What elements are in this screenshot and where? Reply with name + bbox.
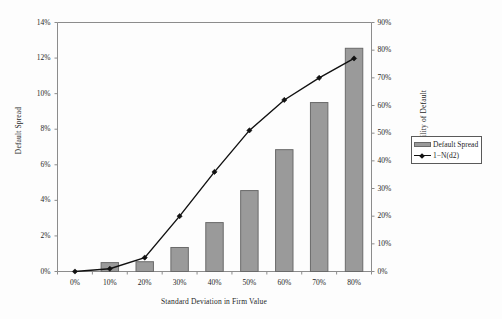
- left-tick-label: 0%: [25, 267, 51, 276]
- right-tick-label: 30%: [378, 184, 404, 193]
- bar: [345, 48, 362, 271]
- x-tick-label: 80%: [334, 278, 374, 287]
- legend-item-one-minus-nd2: 1−N(d2): [414, 150, 478, 161]
- bar: [310, 103, 327, 272]
- left-tick-label: 12%: [25, 53, 51, 62]
- left-tick-label: 2%: [25, 231, 51, 240]
- left-tick-label: 8%: [25, 124, 51, 133]
- line-marker-diamond: [72, 269, 77, 274]
- bar: [171, 247, 188, 271]
- right-tick-label: 0%: [378, 267, 404, 276]
- right-tick-label: 70%: [378, 73, 404, 82]
- legend-label-one-minus-nd2: 1−N(d2): [433, 151, 459, 160]
- chart-figure: Default Spread Probability of Default St…: [0, 0, 502, 319]
- chart-legend: Default Spread 1−N(d2): [411, 136, 482, 164]
- left-tick-label: 14%: [25, 18, 51, 27]
- x-axis-title: Standard Deviation in Firm Value: [57, 297, 371, 306]
- left-tick-label: 4%: [25, 195, 51, 204]
- legend-label-default-spread: Default Spread: [433, 140, 478, 149]
- right-tick-label: 60%: [378, 101, 404, 110]
- line-diamond-swatch-icon: [414, 152, 431, 159]
- right-tick-label: 80%: [378, 45, 404, 54]
- left-tick-label: 10%: [25, 89, 51, 98]
- left-tick-label: 6%: [25, 160, 51, 169]
- right-tick-label: 50%: [378, 128, 404, 137]
- bar: [276, 150, 293, 272]
- bar: [241, 191, 258, 272]
- legend-item-default-spread: Default Spread: [414, 139, 478, 150]
- right-tick-label: 90%: [378, 18, 404, 27]
- bar: [206, 223, 223, 272]
- right-tick-label: 20%: [378, 211, 404, 220]
- bar: [136, 262, 153, 272]
- bar-swatch-icon: [414, 142, 431, 147]
- left-axis-title: Default Spread: [14, 86, 23, 176]
- right-tick-label: 10%: [378, 239, 404, 248]
- bar-series-default-spread: [101, 48, 363, 271]
- right-tick-label: 40%: [378, 156, 404, 165]
